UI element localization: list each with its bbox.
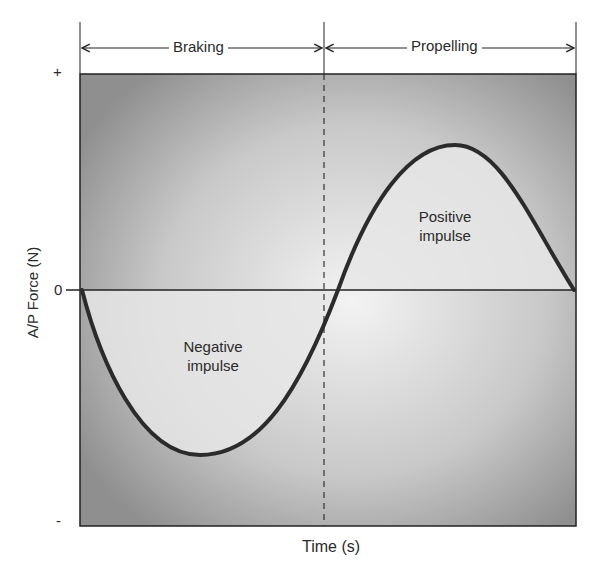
positive-impulse-label: Positive impulse (405, 207, 485, 245)
y-axis-label: A/P Force (N) (24, 247, 41, 338)
phase-label-propelling: Propelling (407, 37, 482, 54)
force-time-diagram (0, 0, 599, 565)
y-tick-minus: - (56, 512, 61, 529)
y-tick-zero: 0 (54, 281, 62, 298)
phase-label-braking: Braking (169, 38, 228, 55)
y-tick-plus: + (53, 63, 62, 80)
negative-impulse-label: Negative impulse (168, 337, 258, 375)
x-axis-label: Time (s) (302, 538, 360, 556)
